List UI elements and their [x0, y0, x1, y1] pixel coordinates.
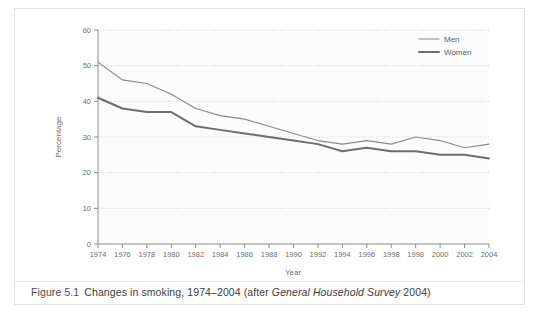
y-tick-label: 10 [83, 204, 91, 213]
x-axis-ticks: 1974197619781980198219841986198819901992… [90, 244, 498, 259]
figure-container: 0102030405060 19741976197819801982198419… [14, 8, 525, 305]
x-axis-title: Year [285, 268, 302, 277]
x-tick-label: 1978 [139, 250, 156, 259]
x-tick-label: 1998 [383, 250, 400, 259]
legend-label-women: Women [444, 48, 471, 57]
y-tick-label: 50 [83, 61, 91, 70]
x-tick-label: 1998 [407, 250, 424, 259]
x-tick-label: 1984 [212, 250, 229, 259]
caption-divider [15, 281, 526, 282]
x-tick-label: 1986 [236, 250, 253, 259]
y-axis-ticks: 0102030405060 [83, 26, 98, 249]
x-tick-label: 1992 [310, 250, 327, 259]
line-chart: 0102030405060 19741976197819801982198419… [15, 9, 526, 281]
x-tick-label: 1980 [163, 250, 180, 259]
y-tick-label: 0 [87, 240, 91, 249]
x-tick-label: 1988 [261, 250, 278, 259]
x-tick-label: 1994 [334, 250, 351, 259]
chart-area: 0102030405060 19741976197819801982198419… [15, 9, 526, 281]
legend-label-men: Men [444, 35, 460, 44]
figure-number: Figure 5.1 [31, 286, 79, 298]
x-tick-label: 2004 [481, 250, 498, 259]
x-tick-label: 2002 [456, 250, 473, 259]
y-tick-label: 60 [83, 26, 91, 35]
y-tick-label: 40 [83, 97, 91, 106]
x-tick-label: 1982 [187, 250, 204, 259]
figure-caption-source: General Household Survey [272, 286, 400, 298]
x-tick-label: 1974 [90, 250, 107, 259]
y-tick-label: 20 [83, 168, 91, 177]
y-tick-label: 30 [83, 133, 91, 142]
x-tick-label: 1990 [285, 250, 302, 259]
x-tick-label: 2000 [432, 250, 449, 259]
x-tick-label: 1976 [114, 250, 131, 259]
figure-caption: Figure 5.1Changes in smoking, 1974–2004 … [31, 286, 511, 298]
x-tick-label: 1996 [358, 250, 375, 259]
figure-caption-tail: 2004) [400, 286, 430, 298]
y-axis-title: Percentage [54, 116, 63, 157]
figure-caption-main: Changes in smoking, 1974–2004 (after [84, 286, 272, 298]
